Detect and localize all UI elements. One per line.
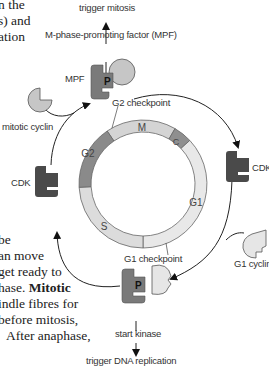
start-kinase-label: start kinase	[115, 328, 161, 339]
g1-cyclin-bound	[152, 265, 171, 294]
start-kinase-complex: P	[122, 265, 171, 303]
mitotic-cyclin-icon	[28, 88, 52, 112]
mpf-label: MPF	[65, 73, 84, 84]
cell-cycle-ring	[79, 120, 207, 248]
g2-checkpoint-label: G2 checkpoint	[112, 97, 170, 108]
g2-checkpoint-pointer	[112, 106, 118, 128]
phase-label-g2: G2	[81, 148, 95, 159]
g1-cyclin-icon	[243, 230, 266, 258]
trigger-mitosis-label: trigger mitosis	[79, 2, 135, 13]
mpf-full-label: M-phase-promoting factor (MPF)	[45, 29, 177, 40]
g1-cyclin-label: G1 cyclin	[234, 258, 269, 269]
trigger-dna-replication-label: trigger DNA replication	[86, 355, 176, 366]
phospho-p: P	[104, 76, 111, 87]
cell-cycle-diagram: M C G1 S G2 P P	[0, 0, 269, 368]
cdk-right-icon	[226, 151, 249, 182]
mpf-complex: P	[91, 59, 135, 99]
phase-label-m: M	[138, 122, 146, 133]
phase-label-c: C	[173, 137, 180, 147]
phospho-p: P	[135, 280, 142, 291]
cdk-right-label: CDK	[252, 162, 269, 173]
phase-label-s: S	[101, 221, 108, 232]
mitotic-cyclin-label: mitotic cyclin	[2, 121, 53, 132]
g1-checkpoint-label: G1 checkpoint	[124, 253, 182, 264]
cdk-left-label: CDK	[11, 177, 30, 188]
phase-label-g1: G1	[189, 197, 203, 208]
cdk-left-icon	[35, 166, 58, 197]
